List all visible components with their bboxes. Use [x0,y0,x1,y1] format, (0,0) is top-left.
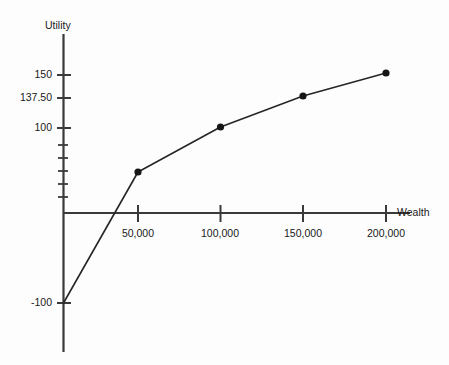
x-tick-label-150000: 150,000 [268,228,338,239]
x-tick-label-50000: 50,000 [103,228,173,239]
data-point-50000 [134,168,141,175]
data-point-200000 [382,69,389,76]
y-axis-title: Utility [45,20,71,31]
utility-curve [64,73,387,303]
y-tick-label-minus-100: -100 [0,297,52,308]
x-axis-title: Wealth [397,207,430,218]
data-point-100000 [217,123,224,130]
data-point-150000 [299,92,306,99]
y-tick-label-137-50: 137.50 [0,92,52,103]
x-tick-label-200000: 200,000 [351,228,421,239]
chart-canvas [0,0,449,365]
y-tick-label-100: 100 [0,122,52,133]
x-tick-label-100000: 100,000 [185,228,255,239]
utility-wealth-chart: Utility Wealth 150 137.50 100 -100 50,00… [0,0,449,365]
y-tick-label-150: 150 [0,69,52,80]
